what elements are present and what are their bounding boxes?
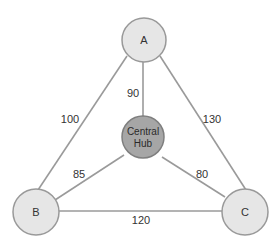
hub-label-line1: Central [127, 126, 159, 137]
network-diagram: 100 130 120 90 85 80 A B C Central Hub [0, 0, 278, 249]
node-c-label: C [241, 206, 249, 218]
weight-a-c: 130 [203, 113, 221, 125]
weight-a-b: 100 [61, 113, 79, 125]
weight-b-hub: 85 [73, 168, 85, 180]
node-b-label: B [32, 206, 39, 218]
node-central-hub [122, 116, 164, 158]
weight-c-hub: 80 [196, 168, 208, 180]
edge-b-hub [55, 155, 124, 200]
node-a-label: A [140, 34, 148, 46]
hub-label-line2: Hub [134, 138, 153, 149]
weight-a-hub: 90 [127, 87, 139, 99]
weight-b-c: 120 [132, 214, 150, 226]
edge-c-hub [162, 157, 225, 197]
